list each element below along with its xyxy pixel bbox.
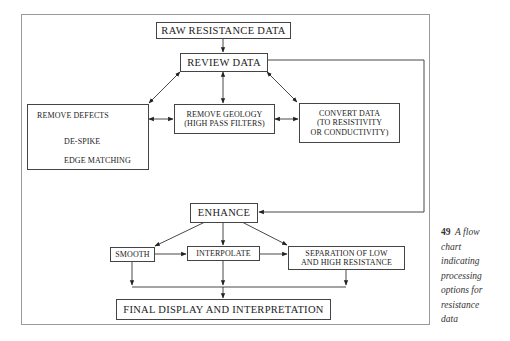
node-label-line1: CONVERT DATA bbox=[319, 109, 380, 119]
node-label-line2: AND HIGH RESISTANCE bbox=[301, 258, 392, 268]
enhance-node: ENHANCE bbox=[190, 203, 258, 223]
figure-caption: 49 A flow chart indicating processing op… bbox=[441, 225, 507, 327]
smooth-node: SMOOTH bbox=[110, 247, 155, 262]
remove-geology-node: REMOVE GEOLOGY (HIGH PASS FILTERS) bbox=[174, 104, 275, 134]
caption-line: processing bbox=[441, 271, 482, 281]
raw-resistance-data-node: RAW RESISTANCE DATA bbox=[156, 22, 291, 39]
node-label: INTERPOLATE bbox=[196, 249, 250, 259]
sub-label-edge-matching: EDGE MATCHING bbox=[64, 156, 131, 166]
final-display-node: FINAL DISPLAY AND INTERPRETATION bbox=[116, 299, 331, 320]
review-data-node: REVIEW DATA bbox=[180, 53, 268, 72]
node-label-line1: REMOVE GEOLOGY bbox=[187, 110, 263, 120]
convert-data-node: CONVERT DATA (TO RESISTIVITY OR CONDUCTI… bbox=[299, 103, 400, 143]
remove-defects-node: REMOVE DEFECTS DE-SPIKE EDGE MATCHING bbox=[27, 104, 149, 170]
caption-line: data bbox=[441, 314, 458, 324]
node-label-line2: (TO RESISTIVITY bbox=[317, 118, 382, 128]
node-label: SMOOTH bbox=[115, 250, 149, 260]
sub-label-despike: DE-SPIKE bbox=[64, 137, 100, 147]
caption-line: chart bbox=[441, 242, 461, 252]
node-label-line1: SEPARATION OF LOW bbox=[305, 249, 387, 259]
caption-line: resistance bbox=[441, 300, 479, 310]
node-label: RAW RESISTANCE DATA bbox=[161, 26, 285, 36]
caption-line: options for bbox=[441, 285, 482, 295]
interpolate-node: INTERPOLATE bbox=[187, 246, 260, 261]
caption-line: A flow bbox=[455, 227, 479, 237]
node-label: FINAL DISPLAY AND INTERPRETATION bbox=[123, 305, 323, 315]
connector-arrows bbox=[0, 0, 510, 341]
node-label-line3: OR CONDUCTIVITY) bbox=[311, 128, 389, 138]
node-label: ENHANCE bbox=[198, 208, 250, 218]
node-label-line2: (HIGH PASS FILTERS) bbox=[184, 119, 264, 129]
node-label: REMOVE DEFECTS bbox=[37, 111, 109, 121]
separation-node: SEPARATION OF LOW AND HIGH RESISTANCE bbox=[288, 246, 405, 270]
caption-line: indicating bbox=[441, 256, 480, 266]
figure-number: 49 bbox=[441, 227, 451, 237]
node-label: REVIEW DATA bbox=[187, 58, 261, 68]
